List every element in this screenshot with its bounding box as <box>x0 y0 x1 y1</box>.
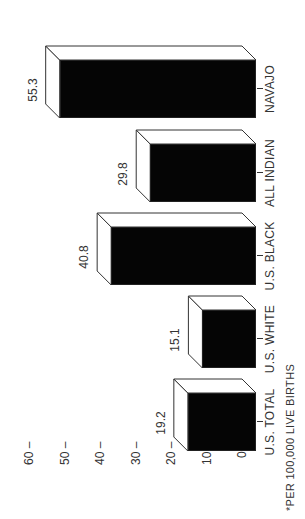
footnote: *PER 100,000 LIVE BIRTHS <box>284 364 296 511</box>
category-label: NAVAJO <box>263 44 277 134</box>
value-label: 55.3 <box>26 60 40 120</box>
chart-canvas: 0 –10 –20 –30 –40 –50 –60 – 19.2U.S. TOT… <box>0 0 305 519</box>
bar-front-face <box>60 60 256 118</box>
